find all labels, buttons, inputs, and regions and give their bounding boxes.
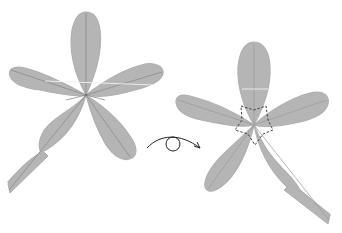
flower-after — [176, 42, 330, 224]
stem — [284, 184, 330, 224]
petal-lower-right — [86, 95, 136, 159]
origami-diagram — [0, 0, 342, 233]
flower-before — [8, 12, 163, 193]
stem — [8, 150, 48, 193]
turn-over-arrow-icon — [147, 137, 200, 151]
center-point — [85, 94, 87, 96]
